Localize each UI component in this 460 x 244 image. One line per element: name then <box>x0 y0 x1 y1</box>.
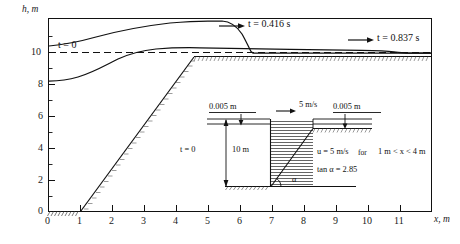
inset-depth-label: 10 m <box>232 146 249 154</box>
label-t0: t = 0 <box>58 40 76 50</box>
label-t-0837: t = 0.837 s <box>377 33 419 43</box>
y-tick-6: 6 <box>38 111 43 121</box>
x-tick-7: 7 <box>269 216 274 226</box>
inset-angle-symbol: α <box>292 176 296 184</box>
y-axis-title: h, m <box>22 5 38 15</box>
x-axis-ticks <box>49 205 432 212</box>
inset-velocity-text: u = 5 m/s <box>317 148 348 156</box>
label-t-0416: t = 0.416 s <box>248 19 290 29</box>
x-axis-title: x, m <box>434 215 450 225</box>
y-tick-2: 2 <box>38 175 43 185</box>
y-axis-ticks <box>49 37 56 212</box>
inset-slope-text: tan α = 2.85 <box>317 166 357 174</box>
inset-depth-dimension <box>224 119 229 187</box>
x-tick-6: 6 <box>237 216 242 226</box>
x-tick-8: 8 <box>301 216 306 226</box>
y-tick-8: 8 <box>38 79 43 89</box>
x-tick-9: 9 <box>333 216 338 226</box>
plot-frame <box>48 18 432 212</box>
x-tick-10: 10 <box>362 216 372 226</box>
y-tick-4: 4 <box>38 143 43 153</box>
inset-velocity-range: 1 m < x < 4 m <box>378 148 426 156</box>
x-tick-2: 2 <box>109 216 114 226</box>
inset-velocity-arrow-label: 5 m/s <box>299 101 317 109</box>
x-tick-3: 3 <box>141 216 146 226</box>
x-tick-1: 1 <box>77 216 82 226</box>
y-tick-10: 10 <box>31 47 41 57</box>
channel-bed <box>48 57 432 217</box>
arrow-t-0837 <box>348 37 374 42</box>
x-tick-0: 0 <box>45 216 50 226</box>
x-tick-5: 5 <box>205 216 210 226</box>
figure-container: h, m x, m 10 8 6 4 2 0 0 1 2 3 4 5 6 7 8… <box>0 0 460 244</box>
inset-velocity-for: for <box>358 149 367 157</box>
inset-thickness-left: 0.005 m <box>209 103 236 111</box>
inset-velocity-arrow <box>276 109 296 114</box>
x-tick-11: 11 <box>394 216 404 226</box>
inset-time-label: t = 0 <box>180 146 195 154</box>
inset-thickness-right: 0.005 m <box>333 103 360 111</box>
x-tick-4: 4 <box>173 216 178 226</box>
y-tick-0: 0 <box>38 206 43 216</box>
